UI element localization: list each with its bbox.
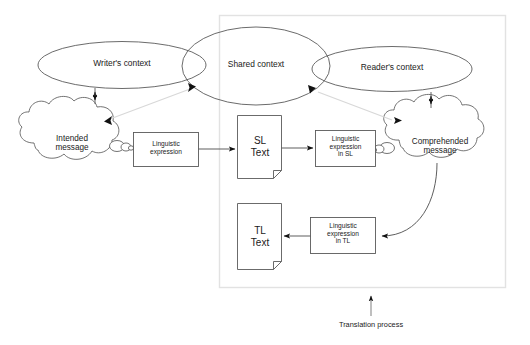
arrow-comprehended-to-expression-tl xyxy=(382,163,437,236)
reader-context-ellipse xyxy=(312,47,472,92)
sl-text-document xyxy=(238,116,282,179)
diagram-canvas: Writer's context Shared context Reader's… xyxy=(0,0,530,345)
shared-context-writer-link xyxy=(104,83,196,125)
shared-context-reader-link xyxy=(308,85,402,124)
linguistic-expression-sl-box xyxy=(316,131,376,167)
writer-context-ellipse xyxy=(38,42,206,89)
linguistic-expression-tl-box xyxy=(311,218,376,254)
comprehended-message-cloud xyxy=(371,94,483,157)
intended-message-cloud xyxy=(19,96,134,159)
shared-context-ellipse xyxy=(182,27,330,105)
linguistic-expression-box xyxy=(134,133,199,167)
diagram-vector-layer xyxy=(0,0,530,345)
tl-text-document xyxy=(238,204,282,270)
